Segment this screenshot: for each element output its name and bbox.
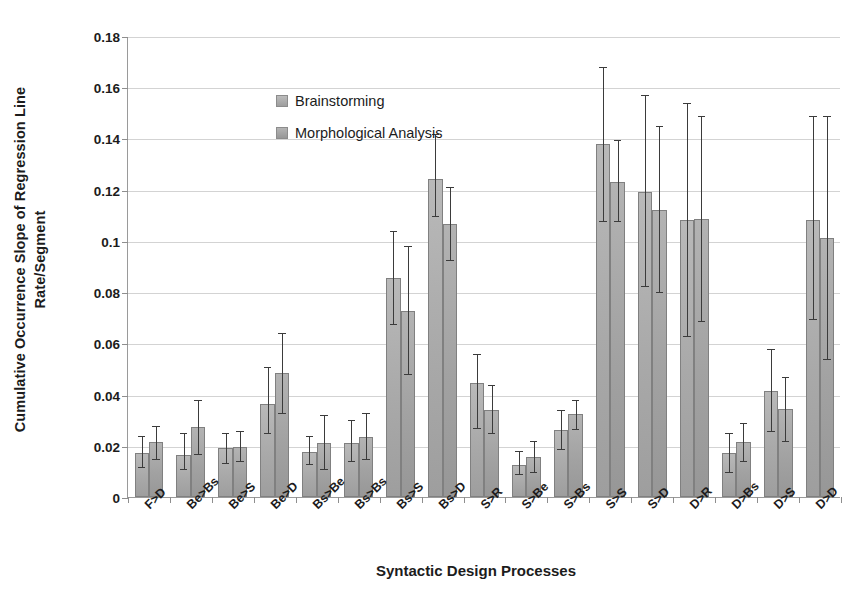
error-bar-cap: [306, 436, 314, 437]
y-axis-tick-label: 0.08: [94, 286, 120, 301]
legend-item-morphological-analysis: Morphological Analysis: [276, 117, 546, 149]
y-axis-tick-label: 0.04: [94, 388, 120, 403]
error-bar-cap: [823, 116, 831, 117]
error-bar: [492, 386, 493, 435]
legend-label-morphological-analysis: Morphological Analysis: [295, 125, 443, 141]
y-axis-tick-mark: [122, 344, 128, 345]
error-bar: [618, 141, 619, 222]
bar-group: [638, 37, 667, 497]
bar-group: [176, 37, 205, 497]
error-bar-cap: [278, 413, 286, 414]
error-bar: [282, 334, 283, 413]
error-bar: [603, 68, 604, 222]
error-bar-cap: [614, 221, 622, 222]
error-bar-cap: [404, 374, 412, 375]
y-axis-tick-label: 0.14: [94, 132, 120, 147]
x-axis-tick-labels: F>DBe>BsBe>SBe>DBs>BeBs>BsBs>SBs>DS>RS>B…: [127, 498, 840, 560]
bar: [428, 179, 442, 497]
error-bar-cap: [488, 433, 496, 434]
bar-group: [135, 37, 164, 497]
error-bar: [142, 437, 143, 468]
error-bar-cap: [320, 469, 328, 470]
error-bar-cap: [809, 116, 817, 117]
legend-swatch-morphological-analysis-icon: [276, 127, 288, 139]
error-bar-cap: [725, 472, 733, 473]
error-bar: [268, 368, 269, 435]
error-bar: [701, 117, 702, 322]
error-bar: [519, 452, 520, 475]
error-bar-cap: [530, 472, 538, 473]
error-bar-cap: [530, 441, 538, 442]
bar: [610, 182, 624, 497]
y-axis-tick-label: 0.18: [94, 30, 120, 45]
bar-group: [554, 37, 583, 497]
error-bar-cap: [473, 428, 481, 429]
error-bar-cap: [641, 286, 649, 287]
bar: [443, 224, 457, 497]
error-bar-cap: [446, 187, 454, 188]
error-bar-cap: [390, 231, 398, 232]
error-bar-cap: [390, 324, 398, 325]
error-bar: [393, 232, 394, 325]
error-bar-cap: [557, 449, 565, 450]
error-bar: [226, 434, 227, 463]
y-axis-tick-label: 0: [112, 491, 120, 506]
y-axis-tick-mark: [122, 191, 128, 192]
error-bar-cap: [362, 459, 370, 460]
error-bar: [771, 350, 772, 432]
y-axis-tick-mark: [122, 447, 128, 448]
error-bar-cap: [473, 354, 481, 355]
y-axis-tick-label: 0.16: [94, 81, 120, 96]
chart-figure: Cumulative Occurrence Slope of Regressio…: [0, 0, 862, 605]
y-axis-tick-mark: [122, 293, 128, 294]
error-bar-cap: [264, 433, 272, 434]
error-bar: [785, 378, 786, 442]
y-axis-tick-mark: [122, 242, 128, 243]
error-bar-cap: [515, 451, 523, 452]
y-axis-title-line-1: Cumulative Occurrence Slope of Regressio…: [12, 87, 28, 432]
error-bar: [240, 432, 241, 463]
error-bar-cap: [446, 260, 454, 261]
error-bar-cap: [599, 67, 607, 68]
y-axis-tick-label: 0.06: [94, 337, 120, 352]
bar-group: [722, 37, 751, 497]
error-bar-cap: [236, 461, 244, 462]
y-axis-tick-mark: [122, 396, 128, 397]
error-bar-cap: [222, 433, 230, 434]
error-bar-cap: [656, 126, 664, 127]
error-bar-cap: [515, 474, 523, 475]
error-bar: [408, 247, 409, 375]
error-bar-cap: [180, 433, 188, 434]
y-axis-tick-mark: [122, 88, 128, 89]
bar-group: [218, 37, 247, 497]
y-axis-tick-label: 0.1: [101, 234, 120, 249]
error-bar-cap: [222, 463, 230, 464]
error-bar: [351, 421, 352, 462]
error-bar: [827, 117, 828, 360]
error-bar-cap: [683, 103, 691, 104]
legend-swatch-brainstorming-icon: [276, 95, 288, 107]
error-bar: [813, 117, 814, 321]
error-bar: [156, 427, 157, 460]
legend: Brainstorming Morphological Analysis: [276, 85, 546, 149]
error-bar-cap: [236, 431, 244, 432]
error-bar-cap: [320, 415, 328, 416]
error-bar-cap: [767, 349, 775, 350]
error-bar-cap: [194, 454, 202, 455]
y-axis-tick-labels: 00.020.040.060.080.10.120.140.160.18: [62, 37, 120, 498]
error-bar-cap: [138, 467, 146, 468]
error-bar-cap: [782, 441, 790, 442]
error-bar-cap: [656, 292, 664, 293]
error-bar-cap: [740, 423, 748, 424]
y-axis-tick-mark: [122, 37, 128, 38]
bar-group: [764, 37, 793, 497]
error-bar-cap: [306, 464, 314, 465]
error-bar-cap: [572, 429, 580, 430]
error-bar: [659, 127, 660, 293]
bar-group: [596, 37, 625, 497]
error-bar: [366, 414, 367, 460]
error-bar: [450, 188, 451, 261]
error-bar: [534, 442, 535, 473]
x-axis-title: Syntactic Design Processes: [0, 562, 862, 579]
error-bar: [561, 411, 562, 449]
